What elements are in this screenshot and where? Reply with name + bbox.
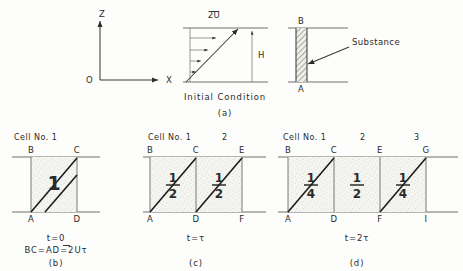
panel-d-label-g: G — [423, 145, 430, 155]
axis-label-z: Z — [99, 9, 105, 19]
substance-leader-line — [308, 47, 349, 64]
panel-d: Cell No. 1 2 3 B C E G A D F I 1 4 1 2 1 — [278, 133, 458, 268]
panel-b-label-top-left: B — [28, 145, 34, 155]
panel-d-header-number-3: 3 — [414, 133, 420, 142]
figure-canvas: Z X O 2U H Initial Condition B A Substan… — [0, 0, 463, 271]
panel-c-cell-1-denominator: 2 — [169, 187, 177, 201]
panel-d-label-b: B — [285, 145, 291, 155]
panel-c: Cell No. 1 2 B C E A D F 1 2 1 2 t=τ (c) — [143, 133, 266, 268]
panel-b-label: (b) — [49, 258, 64, 268]
initial-condition-caption: Initial Condition — [184, 92, 266, 102]
panel-c-label-b: B — [147, 145, 153, 155]
panel-d-time-label: t=2τ — [345, 233, 370, 243]
panel-c-label-d: D — [193, 214, 200, 224]
panel-c-label-e: E — [239, 145, 245, 155]
panel-d-label-c: C — [331, 145, 337, 155]
axis-origin-label: O — [86, 75, 93, 85]
panel-c-label-f: F — [239, 214, 244, 224]
panel-b-relation: BC=AD=2Uτ — [24, 245, 87, 255]
panel-d-label-e: E — [377, 145, 383, 155]
substance-strip — [296, 28, 307, 82]
panel-b-label-bottom-right: D — [74, 214, 81, 224]
panel-c-cell-2-numerator: 1 — [215, 171, 223, 185]
substance-bottom-label: A — [298, 84, 304, 94]
panel-b-label-top-right: C — [74, 145, 80, 155]
panel-a-axes: Z X O — [86, 9, 172, 85]
panel-c-cell-1-numerator: 1 — [169, 171, 177, 185]
panel-c-label-a: A — [147, 214, 153, 224]
panel-b-header: Cell No. 1 — [14, 133, 57, 142]
panel-c-header-number-2: 2 — [222, 133, 228, 142]
panel-a-label: (a) — [218, 108, 233, 118]
panel-d-cell-3-numerator: 1 — [399, 171, 407, 185]
panel-c-label: (c) — [189, 258, 203, 268]
panel-b-cell-value: 1 — [47, 172, 60, 194]
substance-annotation: Substance — [352, 37, 400, 47]
panel-b-label-bottom-left: A — [28, 214, 34, 224]
panel-c-cell-2-denominator: 2 — [215, 187, 223, 201]
panel-d-header-number-2: 2 — [360, 133, 366, 142]
panel-b-time-label: t=0 — [47, 233, 66, 243]
panel-d-cell-3-denominator: 4 — [399, 187, 407, 201]
figure-svg: Z X O 2U H Initial Condition B A Substan… — [0, 0, 463, 271]
panel-d-label-f: F — [377, 214, 382, 224]
panel-d-cell-1-denominator: 4 — [307, 187, 315, 201]
panel-b: Cell No. 1 B C A D 1 t=0 BC=AD=2Uτ (b) — [12, 133, 100, 268]
panel-d-label-i: I — [425, 214, 428, 224]
panel-c-label-c: C — [193, 145, 199, 155]
panel-a-velocity-profile: 2U H Initial Condition — [183, 10, 268, 102]
panel-d-label: (d) — [350, 258, 365, 268]
panel-d-cell-2-denominator: 2 — [353, 187, 361, 201]
panel-d-header: Cell No. 1 — [283, 133, 326, 142]
height-label: H — [258, 50, 265, 60]
panel-d-label-a: A — [285, 214, 291, 224]
panel-c-header: Cell No. 1 — [148, 133, 191, 142]
axis-label-x: X — [166, 75, 172, 85]
panel-d-label-d: D — [331, 214, 338, 224]
substance-top-label: B — [298, 16, 304, 26]
panel-d-cell-2-numerator: 1 — [353, 171, 361, 185]
panel-d-cell-1-numerator: 1 — [307, 171, 315, 185]
panel-a-substance: B A Substance (a) — [218, 16, 400, 118]
panel-c-time-label: t=τ — [187, 233, 205, 243]
